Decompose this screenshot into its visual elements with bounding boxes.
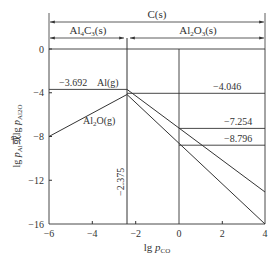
region-label-c: C(s) <box>148 8 167 21</box>
svg-text:−4: −4 <box>33 87 44 98</box>
y-axis-ticks: 0 −4 −8 −12 −16 <box>28 44 52 230</box>
svg-text:−4: −4 <box>87 228 98 239</box>
series-al2o-right <box>127 95 265 225</box>
region-label-al2o3: Al2O3(s) <box>179 24 217 38</box>
label-3.692: −3.692 <box>59 77 87 88</box>
label-4.046: −4.046 <box>213 81 241 92</box>
region-label-al4c3: Al4C3(s) <box>70 24 107 38</box>
y-axis-label: lg pAl或lg pAl2O <box>11 104 24 167</box>
phase-diagram-chart: C(s) Al4C3(s) Al2O3(s) −3.692 Al(g) Al2O… <box>0 0 279 262</box>
svg-text:4: 4 <box>263 228 268 239</box>
svg-text:−6: −6 <box>44 228 55 239</box>
x-axis-label: lg pCO <box>144 241 171 255</box>
svg-text:0: 0 <box>177 228 182 239</box>
svg-text:−16: −16 <box>28 219 44 230</box>
svg-text:−8: −8 <box>33 131 44 142</box>
label-al2o-g: Al2O(g) <box>83 115 115 128</box>
label-7.254: −7.254 <box>224 116 252 127</box>
label-al-g: Al(g) <box>97 77 119 89</box>
svg-text:2: 2 <box>220 228 225 239</box>
label-8.796: −8.796 <box>224 133 252 144</box>
label-2.375: −2.375 <box>115 168 126 196</box>
svg-text:−12: −12 <box>28 175 44 186</box>
svg-text:−2: −2 <box>130 228 141 239</box>
svg-text:0: 0 <box>39 44 44 55</box>
